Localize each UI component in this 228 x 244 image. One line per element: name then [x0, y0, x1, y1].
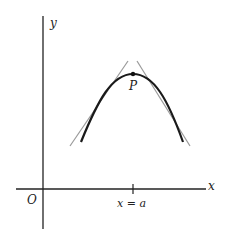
point-p-label: P	[128, 79, 138, 93]
tangent-line-right	[137, 61, 190, 146]
x-axis-label: x	[208, 179, 215, 193]
y-axis-label: y	[49, 16, 57, 30]
diagram-canvas: y x O P x = a	[0, 0, 228, 244]
origin-label: O	[27, 193, 37, 207]
point-p-dot	[131, 72, 135, 76]
tick-label-x-a: x = a	[117, 197, 146, 210]
